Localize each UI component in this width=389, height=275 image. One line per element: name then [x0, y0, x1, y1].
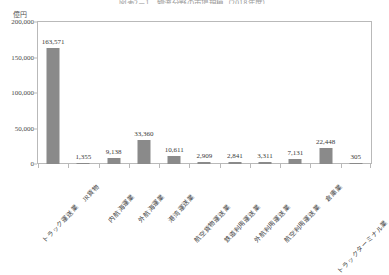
y-tick-label: 150,000: [11, 54, 34, 62]
y-tick-label: 100,000: [11, 89, 34, 97]
bar-slot: 33,360: [129, 22, 159, 164]
x-category-label-text: トラックターミナル業: [334, 217, 389, 275]
x-category-label: JR貨物: [94, 166, 116, 188]
x-category-label-text: JR貨物: [80, 181, 102, 203]
bar-slot: 10,611: [159, 22, 189, 164]
x-category-label: 倉庫業: [336, 166, 358, 188]
bar-value-label: 163,571: [42, 38, 65, 46]
bar-slot: 2,841: [220, 22, 250, 164]
bar-slot: 22,448: [310, 22, 340, 164]
x-category-label: トラックターミナル業: [382, 166, 389, 224]
y-axis: 050,000100,000150,000200,000: [0, 0, 37, 165]
x-category-label-text: 内航海運業: [105, 192, 136, 224]
y-tick-label: 200,000: [11, 18, 34, 26]
bar[interactable]: [137, 140, 150, 164]
y-tick-mark: [33, 164, 37, 165]
bar-value-label: 2,841: [227, 152, 243, 160]
x-category-label-text: 外航海運業: [135, 192, 166, 224]
x-category-label: 港湾運送業: [189, 166, 220, 198]
bar-slot: 3,311: [250, 22, 280, 164]
x-category-label-text: トラック運送業: [39, 202, 80, 245]
bar[interactable]: [47, 48, 60, 164]
bar-slot: 305: [341, 22, 371, 164]
bar-slot: 7,131: [280, 22, 310, 164]
bar-value-label: 3,311: [257, 152, 273, 160]
y-tick-label: 50,000: [15, 125, 34, 133]
y-tick-mark: [33, 57, 37, 58]
x-category-label: 内航海運業: [129, 166, 160, 198]
bar[interactable]: [319, 148, 332, 164]
bar-value-label: 305: [351, 153, 362, 161]
bar[interactable]: [168, 156, 181, 164]
bar-slot: 9,138: [99, 22, 129, 164]
y-tick-mark: [33, 128, 37, 129]
bar-value-label: 33,360: [134, 130, 153, 138]
bar-slot: 163,571: [38, 22, 68, 164]
bar-series: 163,5711,3559,13833,36010,6112,9092,8413…: [38, 22, 371, 164]
bar-value-label: 2,909: [197, 152, 213, 160]
y-tick-mark: [33, 93, 37, 94]
y-tick-mark: [33, 22, 37, 23]
bar-value-label: 10,611: [165, 146, 184, 154]
bar-slot: 1,355: [68, 22, 98, 164]
x-axis-labels: トラック運送業JR貨物内航海運業外航海運業港湾運送業航空貨物運送業鉄道利用運送業…: [38, 166, 371, 226]
bar-slot: 2,909: [189, 22, 219, 164]
x-category-label-text: 倉庫業: [322, 181, 344, 203]
bar-value-label: 1,355: [76, 153, 92, 161]
x-category-label-text: 港湾運送業: [165, 192, 196, 224]
bar-value-label: 9,138: [106, 148, 122, 156]
bar-value-label: 22,448: [316, 138, 335, 146]
bar-value-label: 7,131: [287, 149, 303, 157]
chart-title: 図表2－1 物流分野の市場規模（2018年度）: [0, 0, 389, 4]
